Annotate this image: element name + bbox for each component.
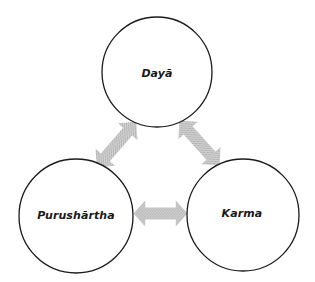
cycle-diagram — [0, 0, 315, 282]
arrow-purushartha-karma — [134, 201, 188, 227]
node-label-purushartha: Purushārtha — [37, 209, 115, 222]
node-label-karma: Karma — [222, 207, 263, 220]
node-label-daya: Dayā — [141, 67, 172, 80]
